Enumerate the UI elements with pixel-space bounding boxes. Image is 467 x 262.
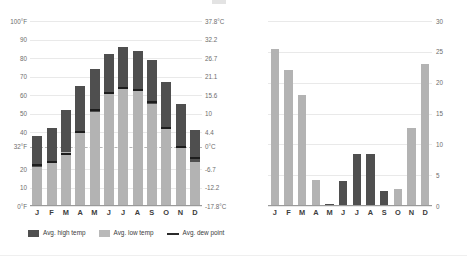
y-tick-label-fahrenheit: 90 <box>0 36 27 43</box>
square-swatch-icon <box>28 230 39 237</box>
avg-low-temp-segment <box>75 132 85 206</box>
avg-dew-point-marker <box>90 109 100 111</box>
month-label: N <box>405 208 419 217</box>
y-tick-label-fahrenheit: 20 <box>0 166 27 173</box>
y-tick-label-fahrenheit: 50 <box>0 110 27 117</box>
month-label: J <box>336 208 350 217</box>
days-below-32f-bar <box>284 70 293 206</box>
days-above-90f-bar <box>353 154 362 206</box>
temperature-month-labels: JFMAMJJASOND <box>30 206 202 220</box>
month-label: J <box>116 208 130 217</box>
avg-low-temp-segment <box>90 112 100 206</box>
square-swatch-icon <box>99 230 110 237</box>
temperature-bars <box>30 21 202 206</box>
avg-low-temp-segment <box>118 88 128 206</box>
days-above-90f-bar <box>339 181 348 206</box>
avg-low-temp-segment <box>47 163 57 206</box>
month-label: J <box>30 208 44 217</box>
temperature-bar <box>176 21 186 206</box>
y-tick-label-celsius: -12.2 <box>205 184 237 191</box>
y-tick-label-days: 0 <box>436 203 464 210</box>
avg-dew-point-marker <box>75 131 85 133</box>
y-tick-label-days: 10 <box>436 141 464 148</box>
month-label: O <box>391 208 405 217</box>
avg-low-temp-segment <box>147 104 157 206</box>
avg-dew-point-marker <box>147 101 157 103</box>
month-label: F <box>44 208 58 217</box>
month-label: A <box>130 208 144 217</box>
temperature-bar <box>75 21 85 206</box>
avg-low-temp-segment <box>61 152 71 206</box>
temperature-bar <box>90 21 100 206</box>
days-below-32f-bar <box>312 180 321 207</box>
y-tick-label-fahrenheit: 32°F <box>0 143 27 150</box>
days-below-32f-bar <box>298 95 307 206</box>
legend-item-high-temp: Avg. high temp <box>28 229 86 237</box>
month-label: N <box>173 208 187 217</box>
month-label: A <box>73 208 87 217</box>
y-tick-label-days: 5 <box>436 172 464 179</box>
avg-low-temp-segment <box>104 93 114 206</box>
avg-high-temp-segment <box>161 82 171 128</box>
days-below-32f-bar <box>271 49 280 206</box>
temperature-bar <box>133 21 143 206</box>
temperature-bar <box>161 21 171 206</box>
month-label: M <box>323 208 337 217</box>
bottom-divider <box>0 255 467 256</box>
month-label: D <box>418 208 432 217</box>
month-label: A <box>309 208 323 217</box>
month-label: M <box>295 208 309 217</box>
legend-label-dew-point: Avg. dew point <box>183 229 225 237</box>
y-tick-label-days: 25 <box>436 48 464 55</box>
month-label: J <box>350 208 364 217</box>
avg-low-temp-segment <box>190 162 200 206</box>
y-tick-label-fahrenheit: 40 <box>0 129 27 136</box>
y-tick-label-celsius: 21.1 <box>205 73 237 80</box>
legend-item-dew-point: Avg. dew point <box>167 229 225 237</box>
y-tick-label-celsius: 4.4 <box>205 129 237 136</box>
line-swatch-icon <box>167 230 179 237</box>
y-tick-label-celsius: -6.7 <box>205 166 237 173</box>
month-label: S <box>377 208 391 217</box>
y-tick-label-fahrenheit: 0°F <box>0 203 27 210</box>
month-label: F <box>282 208 296 217</box>
temperature-bar <box>47 21 57 206</box>
avg-dew-point-marker <box>118 87 128 89</box>
temperature-plot-area <box>30 21 202 206</box>
avg-dew-point-marker <box>61 153 71 155</box>
y-tick-label-celsius: 32.2 <box>205 36 237 43</box>
y-tick-label-fahrenheit: 100°F <box>0 18 27 25</box>
month-label: A <box>364 208 378 217</box>
avg-dew-point-marker <box>161 127 171 129</box>
y-tick-label-celsius: 0°C <box>205 143 237 150</box>
month-label: M <box>87 208 101 217</box>
month-label: S <box>145 208 159 217</box>
y-tick-label-fahrenheit: 70 <box>0 73 27 80</box>
y-tick-label-celsius: -17.8°C <box>205 203 237 210</box>
avg-high-temp-segment <box>90 69 100 112</box>
legend-item-low-temp: Avg. low temp <box>99 229 154 237</box>
temperature-bar <box>104 21 114 206</box>
temperature-bar <box>190 21 200 206</box>
avg-dew-point-marker <box>176 146 186 148</box>
y-tick-label-celsius: 37.8°C <box>205 18 237 25</box>
days-above-90f-bar <box>366 154 375 206</box>
y-tick-label-days: 20 <box>436 79 464 86</box>
avg-high-temp-segment <box>32 136 42 168</box>
legend-label-high-temp: Avg. high temp <box>43 229 86 237</box>
y-tick-label-days: 15 <box>436 110 464 117</box>
avg-high-temp-segment <box>118 47 128 88</box>
extreme-days-plot-area <box>268 21 432 206</box>
avg-dew-point-marker <box>32 164 42 166</box>
y-tick-label-celsius: 26.7 <box>205 55 237 62</box>
y-tick-label-celsius: 10 <box>205 110 237 117</box>
month-label: J <box>102 208 116 217</box>
month-label: D <box>188 208 202 217</box>
month-label: O <box>159 208 173 217</box>
avg-low-temp-segment <box>32 167 42 206</box>
avg-dew-point-marker <box>190 157 200 159</box>
avg-high-temp-segment <box>147 60 157 104</box>
avg-low-temp-segment <box>133 90 143 207</box>
y-tick-label-fahrenheit: 80 <box>0 55 27 62</box>
avg-high-temp-segment <box>133 51 143 90</box>
